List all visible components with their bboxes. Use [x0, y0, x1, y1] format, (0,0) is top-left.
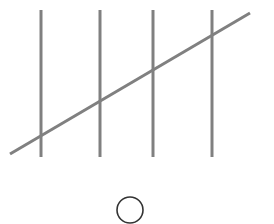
- answer-circle[interactable]: [117, 197, 143, 223]
- tally-mark-diagonal: [10, 13, 250, 154]
- tally-diagram: [0, 0, 274, 224]
- vertical-tally-marks: [41, 10, 212, 157]
